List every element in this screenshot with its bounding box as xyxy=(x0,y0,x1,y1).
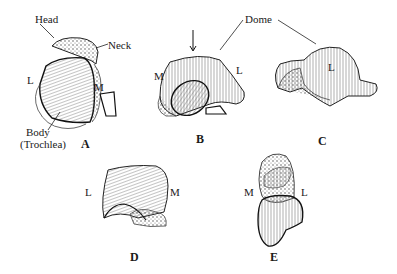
label-lateral-a: L xyxy=(27,74,34,86)
label-lateral-d: L xyxy=(85,186,92,198)
label-dome: Dome xyxy=(245,13,272,25)
label-trochlea: (Trochlea) xyxy=(20,138,66,150)
label-lateral-b: L xyxy=(236,64,243,76)
dome-leader-b xyxy=(220,20,243,50)
panel-label-e: E xyxy=(270,251,278,263)
label-head: Head xyxy=(35,13,58,25)
panel-label-b: B xyxy=(196,133,204,145)
label-lateral-e: L xyxy=(301,186,308,198)
label-body: Body xyxy=(26,126,50,138)
label-neck: Neck xyxy=(108,39,131,51)
panel-e-bone xyxy=(258,154,303,246)
panel-label-c: C xyxy=(318,135,327,147)
panel-label-d: D xyxy=(130,251,139,263)
label-lateral-c: L xyxy=(328,61,335,73)
dome-leader-c xyxy=(278,20,316,44)
panel-c-bone xyxy=(275,47,377,106)
panel-b-bone xyxy=(158,30,244,123)
label-medial-b: M xyxy=(154,70,164,82)
panel-d-bone xyxy=(103,166,168,227)
label-medial-e: M xyxy=(244,186,254,198)
label-medial-d: M xyxy=(170,186,180,198)
label-medial-a: M xyxy=(94,81,104,93)
panel-label-a: A xyxy=(81,138,90,150)
panel-a-bone xyxy=(35,24,116,130)
